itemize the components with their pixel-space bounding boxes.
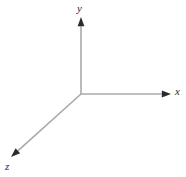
- coordinate-axes-figure: y x z: [0, 0, 186, 177]
- x-axis-arrowhead-icon: [162, 91, 171, 98]
- y-axis-label: y: [77, 3, 82, 14]
- y-axis-arrowhead-icon: [78, 17, 85, 26]
- z-axis-label: z: [5, 161, 9, 172]
- x-axis-label: x: [175, 86, 180, 97]
- z-axis-line: [18, 94, 81, 151]
- axes-drawing: [0, 0, 186, 177]
